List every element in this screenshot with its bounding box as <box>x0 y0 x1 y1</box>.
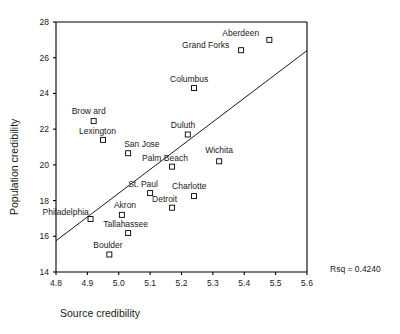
x-tick-label: 5.4 <box>238 278 250 288</box>
x-tick-label: 5.3 <box>207 278 219 288</box>
y-tick-label: 24 <box>40 88 50 98</box>
data-point-label: Detroit <box>152 194 178 204</box>
data-point-marker[interactable] <box>192 194 197 199</box>
data-point-group: AberdeenGrand ForksColumbusBrow ardLexin… <box>43 28 272 257</box>
data-point-marker[interactable] <box>170 205 175 210</box>
data-point-label: Aberdeen <box>222 28 259 38</box>
data-point-label: Boulder <box>93 240 122 250</box>
data-point-marker[interactable] <box>126 151 131 156</box>
data-point-label: Lexington <box>79 126 116 136</box>
scatter-plot-figure: 1416182022242628 4.84.95.05.15.25.35.45.… <box>0 0 400 334</box>
x-axis-title: Source credibility <box>60 307 141 319</box>
data-point-label: Columbus <box>170 74 208 84</box>
y-axis-ticks: 1416182022242628 <box>40 17 56 277</box>
data-point-marker[interactable] <box>101 137 106 142</box>
data-point-marker[interactable] <box>119 212 124 217</box>
plot-frame <box>56 22 307 272</box>
y-tick-label: 20 <box>40 160 50 170</box>
y-tick-label: 14 <box>40 267 50 277</box>
data-point-marker[interactable] <box>267 37 272 42</box>
data-point-label: Grand Forks <box>182 40 229 50</box>
rsq-annotation: Rsq = 0.4240 <box>330 264 381 274</box>
x-tick-label: 5.2 <box>176 278 188 288</box>
data-point-label: Wichita <box>205 145 233 155</box>
x-tick-label: 5.1 <box>144 278 156 288</box>
data-point-label: Brow ard <box>72 106 106 116</box>
data-point-label: Akron <box>114 200 136 210</box>
data-point-marker[interactable] <box>88 216 93 221</box>
data-point-label: Palm Beach <box>142 153 188 163</box>
data-point-marker[interactable] <box>185 132 190 137</box>
y-tick-label: 18 <box>40 196 50 206</box>
y-tick-label: 26 <box>40 53 50 63</box>
y-axis-title: Population credibility <box>8 118 20 215</box>
x-tick-label: 4.8 <box>50 278 62 288</box>
x-tick-label: 5.0 <box>113 278 125 288</box>
data-point-marker[interactable] <box>91 119 96 124</box>
y-tick-label: 16 <box>40 231 50 241</box>
x-axis-ticks: 4.84.95.05.15.25.35.45.55.6 <box>50 272 313 288</box>
y-tick-label: 22 <box>40 124 50 134</box>
data-point-marker[interactable] <box>170 164 175 169</box>
data-point-label: San Jose <box>124 139 160 149</box>
data-point-marker[interactable] <box>126 231 131 236</box>
y-tick-label: 28 <box>40 17 50 27</box>
x-tick-label: 5.6 <box>301 278 313 288</box>
data-point-marker[interactable] <box>107 252 112 257</box>
data-point-label: Philadelphia <box>43 207 90 217</box>
data-point-label: Tallahassee <box>103 219 148 229</box>
data-point-label: Charlotte <box>172 181 207 191</box>
x-tick-label: 5.5 <box>270 278 282 288</box>
chart-canvas: 1416182022242628 4.84.95.05.15.25.35.45.… <box>0 0 400 334</box>
data-point-marker[interactable] <box>192 86 197 91</box>
data-point-label: Duluth <box>171 120 196 130</box>
data-point-marker[interactable] <box>217 159 222 164</box>
data-point-marker[interactable] <box>239 48 244 53</box>
x-tick-label: 4.9 <box>81 278 93 288</box>
data-point-label: St. Paul <box>128 179 158 189</box>
